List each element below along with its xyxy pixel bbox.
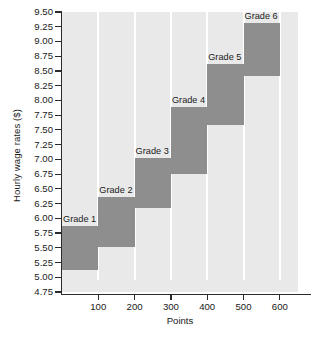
y-tick-9.50 <box>55 11 62 12</box>
y-tick-label-5.25: 5.25 <box>13 258 53 268</box>
x-axis-title: Points <box>62 315 298 326</box>
x-tick-100 <box>98 294 99 300</box>
bar-label-grade-3: Grade 3 <box>136 147 169 156</box>
y-tick-4.75 <box>55 291 62 292</box>
y-tick-label-7.50: 7.50 <box>13 125 53 135</box>
bar-grade-5 <box>207 64 243 125</box>
x-tick-300 <box>170 294 171 300</box>
y-tick-label-6.75: 6.75 <box>13 169 53 179</box>
bar-label-grade-4: Grade 4 <box>172 96 205 105</box>
y-tick-label-9.00: 9.00 <box>13 36 53 46</box>
bar-grade-6 <box>244 23 280 77</box>
y-tick-label-7.25: 7.25 <box>13 140 53 150</box>
y-tick-label-7.75: 7.75 <box>13 110 53 120</box>
bar-grade-3 <box>135 158 171 208</box>
y-tick-7.25 <box>55 144 62 145</box>
y-tick-6.75 <box>55 174 62 175</box>
y-tick-label-5.00: 5.00 <box>13 272 53 282</box>
y-tick-5.25 <box>55 262 62 263</box>
y-tick-8.75 <box>55 56 62 57</box>
y-tick-label-8.00: 8.00 <box>13 95 53 105</box>
y-tick-6.50 <box>55 188 62 189</box>
bar-label-grade-1: Grade 1 <box>63 215 96 224</box>
x-tick-label-100: 100 <box>78 302 118 312</box>
y-tick-8.25 <box>55 85 62 86</box>
bar-label-grade-6: Grade 6 <box>245 12 278 21</box>
x-tick-label-200: 200 <box>115 302 155 312</box>
bar-grade-4 <box>171 107 207 174</box>
y-tick-7.50 <box>55 129 62 130</box>
y-tick-5.00 <box>55 277 62 278</box>
bar-grade-2 <box>98 197 134 248</box>
y-tick-8.50 <box>55 70 62 71</box>
x-tick-400 <box>207 294 208 300</box>
x-tick-label-300: 300 <box>151 302 191 312</box>
bar-label-grade-5: Grade 5 <box>208 53 241 62</box>
y-tick-5.75 <box>55 232 62 233</box>
y-tick-8.00 <box>55 100 62 101</box>
bar-grade-1 <box>62 226 98 270</box>
x-tick-label-500: 500 <box>224 302 264 312</box>
x-tick-label-600: 600 <box>260 302 300 312</box>
y-tick-label-9.25: 9.25 <box>13 22 53 32</box>
y-tick-label-5.75: 5.75 <box>13 228 53 238</box>
y-tick-label-5.50: 5.50 <box>13 243 53 253</box>
bar-label-grade-2: Grade 2 <box>99 186 132 195</box>
x-tick-600 <box>279 294 280 300</box>
y-tick-label-6.25: 6.25 <box>13 199 53 209</box>
y-tick-9.00 <box>55 41 62 42</box>
y-tick-label-8.75: 8.75 <box>13 51 53 61</box>
y-tick-9.25 <box>55 26 62 27</box>
x-tick-label-400: 400 <box>187 302 227 312</box>
y-tick-label-8.25: 8.25 <box>13 81 53 91</box>
wage-grade-chart: Hourly wage rates ($) 4.755.005.255.505.… <box>0 0 323 344</box>
y-tick-label-8.50: 8.50 <box>13 66 53 76</box>
y-tick-label-4.75: 4.75 <box>13 287 53 297</box>
y-tick-7.75 <box>55 115 62 116</box>
x-tick-500 <box>243 294 244 300</box>
y-tick-7.00 <box>55 159 62 160</box>
x-tick-200 <box>134 294 135 300</box>
y-tick-6.25 <box>55 203 62 204</box>
y-tick-label-7.00: 7.00 <box>13 154 53 164</box>
y-tick-label-6.50: 6.50 <box>13 184 53 194</box>
y-tick-6.00 <box>55 218 62 219</box>
y-tick-5.50 <box>55 247 62 248</box>
y-tick-label-9.50: 9.50 <box>13 7 53 17</box>
y-tick-label-6.00: 6.00 <box>13 213 53 223</box>
